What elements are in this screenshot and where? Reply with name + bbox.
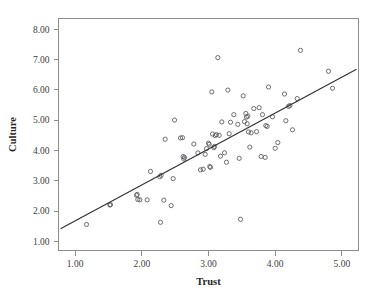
scatter-point xyxy=(298,48,302,52)
scatter-point xyxy=(226,88,230,92)
y-tick-label: 8.00 xyxy=(33,25,50,35)
scatter-point xyxy=(210,90,214,94)
scatter-point xyxy=(218,154,222,158)
scatter-point xyxy=(192,142,196,146)
scatter-point xyxy=(330,86,334,90)
scatter-point xyxy=(203,152,207,156)
scatter-point xyxy=(259,154,263,158)
scatter-point xyxy=(216,56,220,60)
scatter-point xyxy=(227,132,231,136)
scatter-point xyxy=(246,130,250,134)
scatter-point xyxy=(220,120,224,124)
scatter-data-points xyxy=(84,48,334,226)
x-axis-title: Trust xyxy=(196,276,221,287)
chart-canvas: 1.002.003.004.005.00 1.002.003.004.005.0… xyxy=(0,0,373,295)
scatter-point xyxy=(228,120,232,124)
scatter-point xyxy=(171,177,175,181)
y-axis-title: Culture xyxy=(7,117,18,152)
scatter-point xyxy=(249,131,253,135)
y-axis-tick-marks xyxy=(54,29,59,241)
scatter-point xyxy=(284,119,288,123)
x-tick-label: 3.00 xyxy=(200,259,217,269)
x-tick-label: 2.00 xyxy=(134,259,151,269)
scatter-point xyxy=(290,128,294,132)
y-axis-tick-labels: 1.002.003.004.005.006.007.008.00 xyxy=(33,25,50,247)
scatter-point xyxy=(84,222,88,226)
y-tick-label: 4.00 xyxy=(33,146,50,156)
scatter-point xyxy=(260,113,264,117)
y-tick-label: 5.00 xyxy=(33,115,50,125)
plot-area-border xyxy=(59,19,359,251)
scatter-point xyxy=(254,130,258,134)
scatter-point xyxy=(162,198,166,202)
scatter-point xyxy=(237,156,241,160)
y-tick-label: 2.00 xyxy=(33,206,50,216)
x-tick-label: 4.00 xyxy=(267,259,284,269)
scatter-point xyxy=(224,160,228,164)
y-tick-label: 7.00 xyxy=(33,55,50,65)
scatter-point xyxy=(172,118,176,122)
x-tick-label: 1.00 xyxy=(67,259,84,269)
scatter-point xyxy=(163,137,167,141)
scatter-point xyxy=(266,85,270,89)
scatter-point xyxy=(282,92,286,96)
scatter-point xyxy=(148,169,152,173)
scatter-point xyxy=(276,140,280,144)
plot-frame xyxy=(59,19,359,251)
x-axis-tick-labels: 1.002.003.004.005.00 xyxy=(67,259,351,269)
scatter-point xyxy=(169,204,173,208)
y-tick-label: 3.00 xyxy=(33,176,50,186)
scatter-plot-figure: 1.002.003.004.005.00 1.002.003.004.005.0… xyxy=(0,0,373,295)
y-tick-label: 1.00 xyxy=(33,237,50,247)
scatter-point xyxy=(263,155,267,159)
regression-fit-line xyxy=(61,69,357,229)
scatter-point xyxy=(252,106,256,110)
scatter-point xyxy=(241,94,245,98)
scatter-point xyxy=(158,220,162,224)
scatter-point xyxy=(265,124,269,128)
scatter-point xyxy=(326,69,330,73)
y-tick-label: 6.00 xyxy=(33,85,50,95)
scatter-point xyxy=(238,217,242,221)
scatter-point xyxy=(236,122,240,126)
scatter-point xyxy=(273,146,277,150)
scatter-point xyxy=(201,167,205,171)
scatter-point xyxy=(232,113,236,117)
scatter-point xyxy=(257,106,261,110)
x-axis-tick-marks xyxy=(75,251,342,256)
scatter-point xyxy=(145,198,149,202)
scatter-point xyxy=(222,151,226,155)
x-tick-label: 5.00 xyxy=(334,259,351,269)
scatter-point xyxy=(248,145,252,149)
